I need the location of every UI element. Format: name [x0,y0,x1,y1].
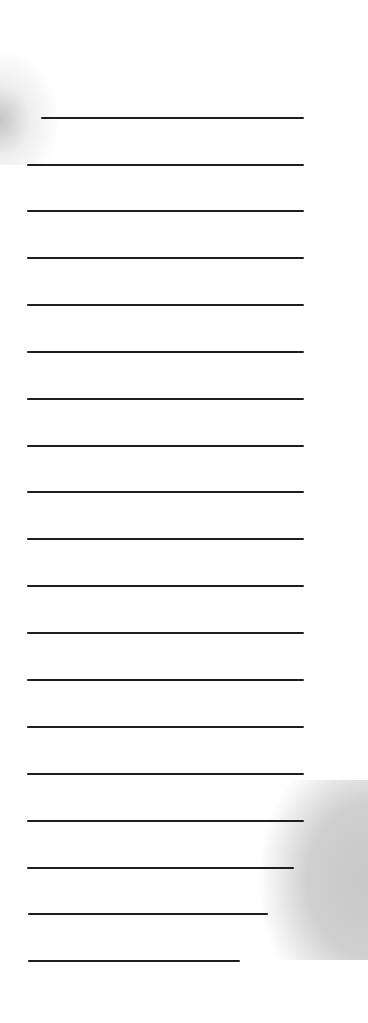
ruled-line [27,726,304,728]
ruled-line [27,632,304,634]
ruled-line [27,867,294,869]
ruled-line [28,960,240,962]
ruled-line [27,538,304,540]
page-curl-shadow-bottom-right [250,780,368,960]
ruled-line [27,820,304,822]
ruled-line [27,773,304,775]
ruled-line [27,164,304,166]
ruled-line [27,351,304,353]
ruled-line [27,445,304,447]
ruled-line [27,398,304,400]
ruled-line [27,257,304,259]
ruled-paper-sheet [0,0,368,1023]
ruled-line [27,210,304,212]
ruled-line [28,913,268,915]
page-curl-shadow-top-left [0,45,60,165]
ruled-line [27,679,304,681]
ruled-line [27,491,304,493]
ruled-line [27,304,304,306]
ruled-line [27,585,304,587]
ruled-line [41,117,304,119]
